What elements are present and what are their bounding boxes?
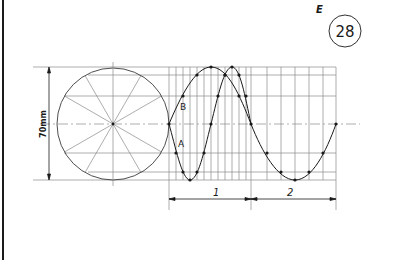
curve-b-label: B [180, 102, 186, 112]
figure-number: 28 [335, 23, 354, 41]
vertical-grid-lines [169, 67, 336, 210]
period-label-1: 1 [213, 187, 219, 198]
curve-points [167, 65, 337, 181]
curve-a-label: A [178, 139, 185, 149]
period-label-2: 2 [287, 187, 293, 198]
period-dimensions [169, 198, 336, 201]
horizontal-projection-lines [33, 67, 336, 180]
height-dimension-label: 70mm [39, 110, 48, 138]
section-letter: E [316, 4, 323, 15]
sine-curve-construction-diagram: 70mm 1 2 B A E 28 [0, 0, 393, 260]
